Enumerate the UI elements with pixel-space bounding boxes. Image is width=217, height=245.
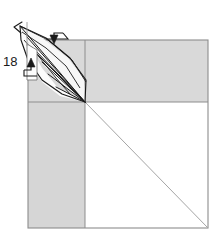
origami-diagram: 18 <box>0 0 217 245</box>
shaded-region-lower-left <box>28 102 85 228</box>
origami-figure-svg: 18 <box>0 0 217 245</box>
step-number-label: 18 <box>3 54 17 69</box>
